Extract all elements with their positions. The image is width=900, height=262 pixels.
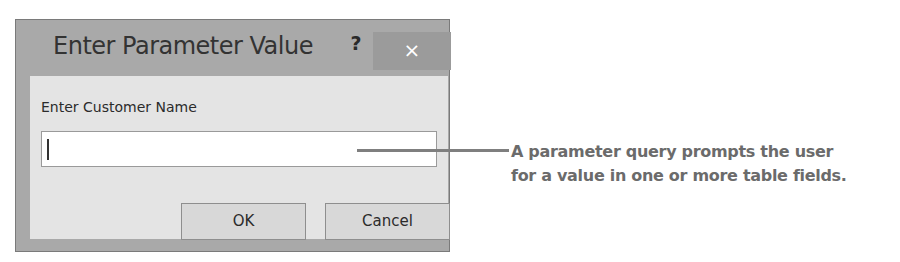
dialog-body: Enter Customer Name OK Cancel [30, 76, 448, 239]
callout-leader-line [357, 149, 509, 152]
help-icon: ? [350, 32, 361, 54]
close-button[interactable]: × [373, 32, 451, 70]
cancel-button[interactable]: Cancel [325, 203, 450, 240]
help-button[interactable]: ? [344, 28, 368, 58]
dialog-title: Enter Parameter Value [53, 32, 313, 60]
prompt-label: Enter Customer Name [41, 99, 197, 115]
close-icon: × [404, 38, 421, 62]
dialog-titlebar[interactable]: Enter Parameter Value ? × [16, 20, 449, 76]
figure-stage: Enter Parameter Value ? × Enter Customer… [0, 0, 900, 262]
callout-text: A parameter query prompts the user for a… [511, 140, 847, 188]
ok-button[interactable]: OK [181, 203, 306, 240]
callout-line-1: A parameter query prompts the user [511, 140, 847, 164]
enter-parameter-value-dialog: Enter Parameter Value ? × Enter Customer… [15, 19, 450, 252]
callout-line-2: for a value in one or more table fields. [511, 164, 847, 188]
text-caret [47, 139, 49, 160]
